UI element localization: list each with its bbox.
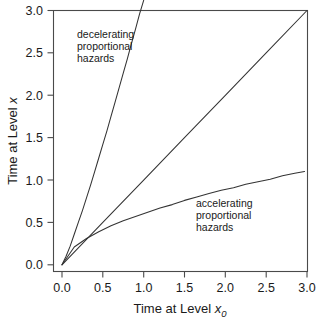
- accelerating-annotation-line-2: hazards: [196, 221, 233, 233]
- x-tick-label-6: 3.0: [298, 281, 315, 295]
- y-tick-label-0: 0.0: [26, 258, 43, 272]
- y-tick-label-2: 1.0: [26, 174, 43, 188]
- y-axis-title-base: Time at Level: [5, 104, 20, 185]
- accelerating-annotation-line-0: accelerating: [196, 197, 253, 209]
- x-tick-label-2: 1.0: [135, 281, 152, 295]
- chart-background: [0, 0, 321, 321]
- x-axis-title-subscript: 0: [221, 308, 227, 319]
- x-axis-title-base: Time at Level: [134, 301, 215, 316]
- x-tick-label-5: 2.5: [258, 281, 275, 295]
- accelerating-annotation-line-1: proportional: [196, 209, 251, 221]
- y-tick-label-5: 2.5: [26, 46, 43, 60]
- decelerating-annotation-line-0: decelerating: [77, 28, 134, 40]
- chart-figure: 0.0 0.5 1.0 1.5 2.0 2.5 3.0 0.0 0.5 1.0 …: [0, 0, 321, 321]
- y-tick-label-4: 2.0: [26, 89, 43, 103]
- x-tick-label-1: 0.5: [94, 281, 111, 295]
- chart-canvas: 0.0 0.5 1.0 1.5 2.0 2.5 3.0 0.0 0.5 1.0 …: [0, 0, 321, 321]
- x-tick-label-3: 1.5: [176, 281, 193, 295]
- y-axis-title-var: x: [5, 97, 20, 105]
- y-tick-label-6: 3.0: [26, 4, 43, 18]
- decelerating-annotation-line-1: proportional: [77, 40, 132, 52]
- y-tick-label-1: 0.5: [26, 216, 43, 230]
- x-tick-label-4: 2.0: [217, 281, 234, 295]
- x-tick-label-0: 0.0: [53, 281, 70, 295]
- x-axis-title: Time at Level x0: [134, 301, 228, 319]
- y-axis-title: Time at Level x: [5, 97, 20, 185]
- y-tick-label-3: 1.5: [26, 131, 43, 145]
- decelerating-annotation-line-2: hazards: [77, 52, 114, 64]
